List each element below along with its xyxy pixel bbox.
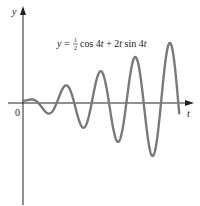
chart: y t 0 y = 1 2 cos 4t + 2t sin 4t bbox=[0, 0, 200, 206]
equation-prefix: y = bbox=[56, 38, 70, 49]
t-axis-label: t bbox=[187, 108, 190, 119]
equation-frac-den: 2 bbox=[74, 45, 77, 51]
series-line-y bbox=[23, 43, 179, 156]
equation-frac-num: 1 bbox=[74, 37, 77, 43]
t-axis-arrow bbox=[185, 100, 194, 106]
y-axis-label: y bbox=[11, 6, 17, 17]
y-axis-arrow bbox=[20, 6, 26, 15]
origin-label: 0 bbox=[15, 107, 20, 118]
equation-suffix: cos 4t + 2t sin 4t bbox=[80, 38, 147, 49]
equation-annotation: y = 1 2 cos 4t + 2t sin 4t bbox=[56, 37, 147, 51]
